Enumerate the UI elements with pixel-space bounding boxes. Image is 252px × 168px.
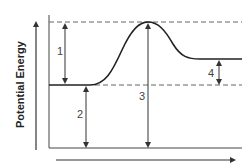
y-axis-label: Potential Energy [14, 40, 26, 128]
arrow-4-label: 4 [208, 67, 214, 79]
potential-energy-diagram: Potential Energy 1 2 3 4 [0, 0, 252, 168]
arrow-3-label: 3 [139, 90, 145, 102]
arrow-2-label: 2 [77, 108, 83, 120]
plot-frame [49, 15, 242, 148]
arrow-1-label: 1 [57, 45, 63, 57]
